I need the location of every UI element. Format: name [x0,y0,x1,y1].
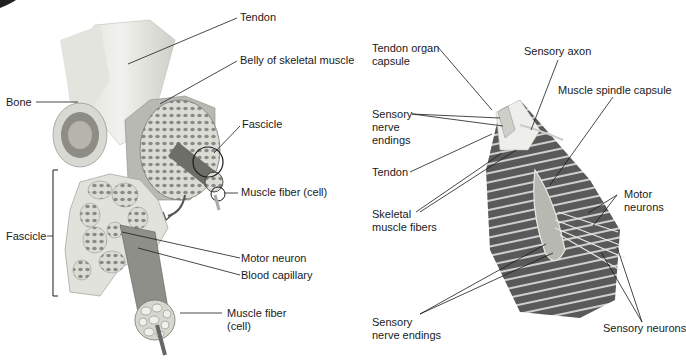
label-sensory-nerve-endings-top: Sensory nerve endings [372,108,412,147]
label-bone: Bone [6,96,32,109]
label-belly-of-skeletal-muscle: Belly of skeletal muscle [240,54,354,67]
label-muscle-fiber-top: Muscle fiber (cell) [241,186,327,199]
label-sensory-endings-line2: nerve endings [372,329,441,342]
label-tendon-right: Tendon [372,166,408,179]
label-sensory-nerve-line2: nerve [372,121,412,134]
label-sensory-neurons: Sensory neurons [603,322,686,335]
label-fascicle-bracket: Fascicle [6,230,46,243]
label-sensory-nerve-line1: Sensory [372,108,412,121]
label-sensory-nerve-endings-bottom: Sensory nerve endings [372,316,441,342]
label-sensory-nerve-line3: endings [372,134,412,147]
label-skeletal-line1: Skeletal [372,208,437,221]
label-motor-neurons: Motor neurons [624,188,664,214]
label-tendon-organ-line1: Tendon organ [372,42,439,55]
label-muscle-fiber-bottom-line2: (cell) [227,320,286,333]
label-tendon-organ-line2: capsule [372,55,439,68]
label-skeletal-line2: muscle fibers [372,221,437,234]
label-muscle-spindle-capsule: Muscle spindle capsule [558,84,672,97]
label-blood-capillary: Blood capillary [241,269,313,282]
label-tendon-organ-capsule: Tendon organ capsule [372,42,439,68]
label-skeletal-muscle-fibers: Skeletal muscle fibers [372,208,437,234]
label-muscle-fiber-bottom: Muscle fiber (cell) [227,307,286,333]
label-fascicle-top: Fascicle [242,118,282,131]
label-tendon: Tendon [240,11,276,24]
label-motor-line1: Motor [624,188,664,201]
corner-mark [0,0,16,8]
left-illustration [36,18,240,355]
label-sensory-endings-line1: Sensory [372,316,441,329]
label-muscle-fiber-bottom-line1: Muscle fiber [227,307,286,320]
label-motor-neuron: Motor neuron [241,252,306,265]
label-sensory-axon: Sensory axon [524,45,591,58]
label-motor-line2: neurons [624,201,664,214]
